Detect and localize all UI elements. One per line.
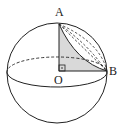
label-a: A xyxy=(55,5,64,19)
label-o: O xyxy=(54,73,63,87)
sphere-diagram: A O B xyxy=(0,0,123,131)
label-b: B xyxy=(109,64,117,78)
right-angle-dot xyxy=(61,67,63,69)
